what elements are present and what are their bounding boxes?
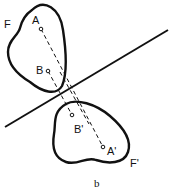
label-a: A xyxy=(32,14,40,26)
label-f-prime: F' xyxy=(130,157,139,169)
point-b-prime xyxy=(70,113,74,117)
shape-f-prime-outline xyxy=(53,102,129,163)
label-b: B xyxy=(36,64,43,76)
reflection-diagram: F A B B' A' F' b xyxy=(0,0,175,189)
label-f: F xyxy=(4,18,11,30)
point-b xyxy=(46,69,50,73)
label-b-prime: B' xyxy=(74,123,83,135)
label-a-prime: A' xyxy=(107,145,116,157)
mirror-line xyxy=(5,30,168,127)
point-a-prime xyxy=(101,145,105,149)
figure-caption: b xyxy=(94,177,100,189)
dashed-line-a-a-prime xyxy=(41,29,103,147)
point-a xyxy=(39,27,43,31)
